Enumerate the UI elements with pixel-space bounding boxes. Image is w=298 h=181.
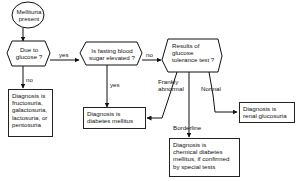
decision-line: glucose ? (12, 53, 46, 60)
outcome-line: mellitus, if confirmed (173, 155, 236, 162)
decision-due-to-glucose-text: Due to glucose ? (12, 46, 46, 60)
outcome-line: Diagnosis is (87, 110, 142, 117)
start-node: Mellituria present (14, 8, 44, 22)
decision-line: tolerance test ? (172, 56, 214, 63)
decision-line: glucose (172, 49, 214, 56)
outcome-line: pentosuria (12, 121, 49, 128)
outcome-line: fructosuria, (12, 99, 49, 106)
outcome-diabetes-mellitus: Diagnosis is diabetes mellitus (83, 107, 146, 129)
decision-line: Results of (172, 42, 214, 49)
edge-label-normal: Normal (201, 85, 221, 92)
edge-label-line: abnormal (158, 85, 184, 92)
edge-label-no: no (26, 76, 33, 83)
decision-glucose-tolerance-text: Results of glucose tolerance test ? (172, 42, 214, 64)
outcome-line: by special tests (173, 163, 236, 170)
outcome-line: Diagnosis is (173, 141, 236, 148)
start-line: Mellituria (14, 8, 44, 15)
decision-line: Is fasting blood (85, 47, 139, 54)
outcome-line: diabetes mellitus (87, 117, 142, 124)
edge-label-yes: yes (59, 51, 69, 58)
decision-line: sugar elevated ? (85, 54, 139, 61)
outcome-fructosuria: Diagnosis is fructosuria, galactosuria, … (8, 89, 53, 137)
outcome-line: galactosuria, (12, 106, 49, 113)
outcome-chemical-diabetes: Diagnosis is chemical diabetes mellitus,… (169, 138, 240, 177)
outcome-line: Diagnosis is (243, 105, 291, 112)
decision-fasting-text: Is fasting blood sugar elevated ? (85, 47, 139, 61)
edge-label-yes: yes (110, 81, 120, 88)
edge-label-line: Frankly (158, 78, 184, 85)
edge-label-borderline: Borderline (173, 124, 201, 131)
decision-line: Due to (12, 46, 46, 53)
edge-label-no: no (146, 51, 153, 58)
outcome-line: chemical diabetes (173, 148, 236, 155)
outcome-line: Diagnosis is (12, 92, 49, 99)
edge-label-frankly-abnormal: Frankly abnormal (158, 78, 184, 92)
start-line: present (14, 15, 44, 22)
outcome-line: lactosuria, or (12, 114, 49, 121)
outcome-renal-glucosuria: Diagnosis is renal glucosuria (239, 102, 295, 123)
outcome-line: renal glucosuria (243, 112, 291, 119)
